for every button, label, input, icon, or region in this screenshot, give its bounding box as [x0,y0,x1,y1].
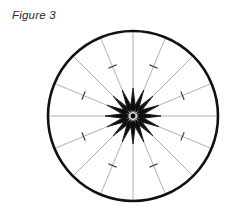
spoke-tick-mark [82,132,85,140]
figure-container: Figure 3 [0,0,236,219]
spoke-tick-mark [82,91,85,99]
spoke-tick-mark [108,65,116,68]
spoke-tick-mark [108,164,116,167]
spoke-tick-mark [149,164,157,167]
figure-diagram [0,0,236,219]
spoke-tick-mark [149,65,157,68]
spoke-tick-mark [181,132,184,140]
center-hub-dot [131,114,136,119]
spoke-tick-mark [181,91,184,99]
